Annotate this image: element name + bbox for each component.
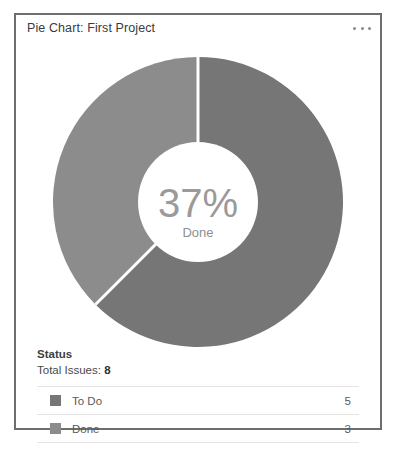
legend-label-done: Done: [72, 423, 345, 435]
total-issues-line: Total Issues: 8: [37, 362, 359, 378]
donut-chart-svg: 37% Done: [53, 57, 343, 347]
donut-center-percent: 37%: [158, 181, 238, 225]
legend-table: To Do 5 Done 3: [37, 386, 359, 443]
status-heading: Status: [37, 347, 359, 362]
donut-chart: 37% Done: [53, 57, 343, 347]
ellipsis-dot-1: [353, 27, 356, 30]
ellipsis-dot-3: [368, 27, 371, 30]
total-issues-value: 8: [104, 364, 110, 376]
ellipsis-horizontal-icon[interactable]: [353, 21, 371, 35]
donut-center-label: Done: [182, 225, 213, 240]
status-legend-block: Status Total Issues: 8 To Do 5 Done 3: [16, 347, 380, 443]
legend-label-to-do: To Do: [72, 395, 345, 407]
pie-chart-gadget-card: Pie Chart: First Project 37% Done: [14, 13, 382, 430]
page-title: Pie Chart: First Project: [27, 21, 370, 35]
legend-value-done: 3: [345, 423, 359, 435]
legend-row-done[interactable]: Done 3: [37, 415, 359, 443]
donut-chart-area: 37% Done: [16, 42, 380, 347]
legend-swatch-to-do: [50, 395, 61, 406]
total-issues-label: Total Issues:: [37, 364, 101, 376]
legend-row-to-do[interactable]: To Do 5: [37, 387, 359, 415]
ellipsis-dot-2: [361, 27, 364, 30]
legend-value-to-do: 5: [345, 395, 359, 407]
gadget-header: Pie Chart: First Project: [16, 15, 380, 42]
legend-swatch-done: [50, 423, 61, 434]
